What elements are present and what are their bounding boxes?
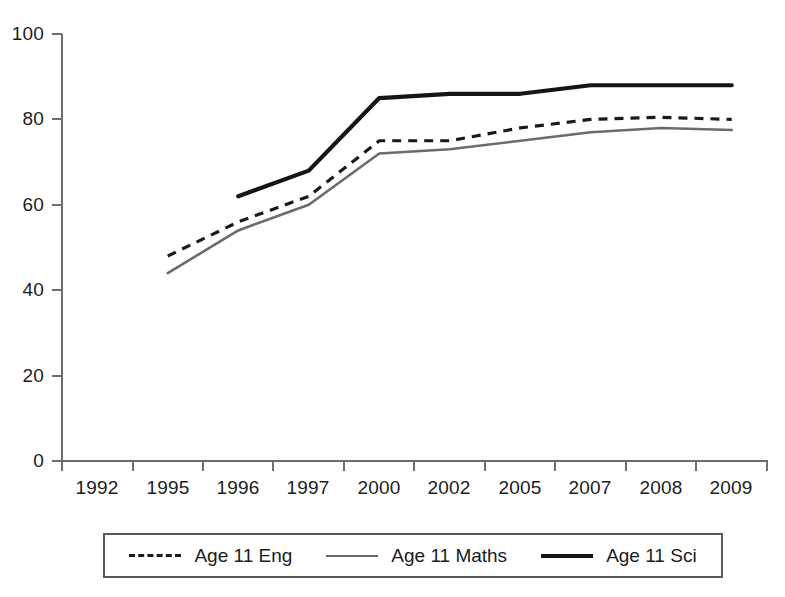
- legend-entry-age-11-maths: Age 11 Maths: [309, 545, 524, 567]
- y-tick-label-80: 80: [0, 108, 44, 130]
- x-tick-label-2009: 2009: [709, 477, 752, 499]
- legend-entry-age-11-eng: Age 11 Eng: [112, 545, 309, 567]
- series-paths: [168, 85, 732, 273]
- legend-label-age-11-eng: Age 11 Eng: [194, 545, 292, 567]
- x-tick-label-2007: 2007: [568, 477, 611, 499]
- y-tick-label-0: 0: [0, 450, 44, 472]
- y-tick-label-20: 20: [0, 365, 44, 387]
- x-tick-label-1997: 1997: [286, 477, 329, 499]
- series-line-age-11-sci: [238, 85, 732, 196]
- legend-entry-age-11-sci: Age 11 Sci: [524, 545, 713, 567]
- x-tick-label-2008: 2008: [639, 477, 682, 499]
- x-tick-label-1996: 1996: [216, 477, 259, 499]
- x-tick-label-1995: 1995: [146, 477, 189, 499]
- chart-legend: Age 11 Eng Age 11 Maths Age 11 Sci: [103, 533, 723, 578]
- series-line-age-11-maths: [168, 128, 732, 273]
- line-chart: 100 80 60 40 20 0 1992 1995 1996 1997 20…: [0, 0, 785, 597]
- y-axis-ticks: [52, 34, 62, 461]
- chart-plot-area: [0, 0, 785, 597]
- x-tick-label-2002: 2002: [427, 477, 470, 499]
- thick-solid-line-swatch-icon: [541, 554, 593, 558]
- dashed-line-swatch-icon: [129, 554, 181, 557]
- y-tick-label-60: 60: [0, 194, 44, 216]
- y-tick-label-100: 100: [0, 23, 44, 45]
- legend-label-age-11-sci: Age 11 Sci: [606, 545, 696, 567]
- x-tick-label-2005: 2005: [498, 477, 541, 499]
- legend-label-age-11-maths: Age 11 Maths: [391, 545, 507, 567]
- thin-solid-line-swatch-icon: [326, 555, 378, 557]
- x-tick-label-2000: 2000: [357, 477, 400, 499]
- x-tick-label-1992: 1992: [75, 477, 118, 499]
- x-axis-ticks: [62, 461, 767, 471]
- series-line-age-11-eng: [168, 117, 732, 256]
- y-tick-label-40: 40: [0, 279, 44, 301]
